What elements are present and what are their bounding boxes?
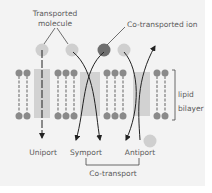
lipid-group-4: [154, 70, 169, 120]
antiport-label: Antiport: [125, 148, 155, 157]
symport-label: Symport: [70, 148, 102, 157]
co-transported-ion-symport: [98, 44, 111, 57]
co-transport-bracket: [86, 158, 139, 165]
lipid-group-1: [16, 70, 31, 120]
transported-molecule-label-line1: Transported: [32, 9, 78, 18]
transported-molecule-symport: [66, 44, 79, 57]
lipid-bilayer-label-line2: bilayer: [178, 104, 205, 113]
transported-molecule-antiport-top: [118, 44, 131, 57]
lipid-group-2: [55, 70, 78, 120]
protein-channels: [34, 69, 150, 118]
lipid-bilayer-label-line1: lipid: [178, 90, 194, 99]
co-transported-ion-label: Co-transported ion: [127, 20, 198, 29]
lipid-group-3: [104, 70, 127, 120]
transported-molecule-label-line2: molecule: [38, 19, 73, 28]
label-pointers: [44, 27, 125, 45]
co-transport-label: Co-transport: [89, 169, 136, 178]
membrane-transport-diagram: Transported molecule Co-transported ion …: [0, 0, 212, 193]
co-transported-ion-antiport-bottom: [144, 135, 157, 148]
lipid-bilayer-bracket: [172, 70, 175, 120]
diagram-canvas: Transported molecule Co-transported ion …: [0, 0, 205, 186]
uniport-label: Uniport: [29, 148, 57, 157]
